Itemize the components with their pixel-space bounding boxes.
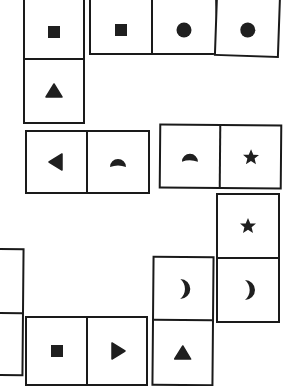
triangle-up-icon (171, 340, 195, 364)
half-moon-top-icon (106, 150, 130, 174)
domino-cell (88, 132, 148, 192)
domino-cell (0, 314, 22, 375)
domino-cell (91, 0, 151, 53)
domino-cell (27, 318, 86, 384)
domino-tile-g (151, 256, 214, 386)
domino-cell (221, 126, 281, 188)
triangle-up-icon (42, 79, 66, 103)
domino-tile-i (0, 248, 25, 377)
domino-tile-e (159, 123, 283, 189)
tile-divider (86, 318, 88, 384)
square-icon (45, 339, 69, 363)
tile-divider (218, 257, 278, 259)
circle-icon (172, 18, 196, 42)
domino-tile-c (214, 0, 281, 58)
domino-cell (216, 0, 279, 56)
crescent-right-icon (171, 276, 195, 300)
domino-cell (153, 0, 215, 53)
domino-cell (0, 250, 23, 313)
domino-tile-f (216, 193, 280, 323)
domino-tile-b (89, 0, 217, 55)
star-icon (238, 145, 262, 169)
domino-tile-h (25, 316, 148, 386)
domino-cell (25, 0, 83, 58)
domino-tile-d (25, 130, 150, 194)
domino-cell (154, 258, 213, 320)
square-icon (42, 20, 66, 44)
triangle-left-icon (45, 150, 69, 174)
half-moon-top-icon (178, 144, 202, 168)
tile-divider (0, 312, 22, 315)
star-icon (236, 214, 260, 238)
tile-divider (86, 132, 88, 192)
domino-cell (218, 195, 278, 257)
domino-cell (161, 125, 220, 187)
domino-cell (88, 318, 146, 384)
circle-icon (235, 17, 260, 42)
domino-tile-a (23, 0, 85, 124)
domino-cell (218, 259, 278, 321)
triangle-right-icon (105, 339, 129, 363)
domino-cell (27, 132, 86, 192)
domino-cell (153, 321, 212, 385)
domino-cell (25, 60, 83, 122)
square-icon (109, 18, 133, 42)
tile-divider (25, 58, 83, 60)
crescent-right-icon (236, 278, 260, 302)
tile-divider (151, 0, 153, 53)
